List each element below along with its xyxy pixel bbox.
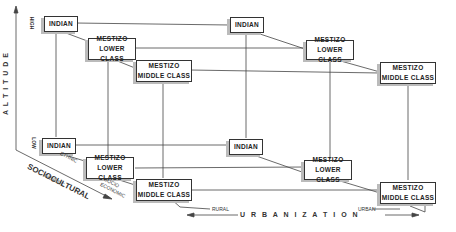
node-label: INDIAN <box>231 20 263 30</box>
node-high-urban-indian: INDIAN <box>230 17 264 33</box>
altitude-low-label: LOW <box>31 137 37 149</box>
node-label: MESTIZO <box>305 155 351 165</box>
node-label: INDIAN <box>230 142 262 152</box>
urban-label: URBAN <box>358 206 376 212</box>
node-label: MESTIZO <box>87 153 133 163</box>
node-high-rural-mestizo-middle: MESTIZO MIDDLE CLASS <box>136 60 192 82</box>
altitude-high-label: HIGH <box>29 17 35 30</box>
rural-label: RURAL <box>212 206 229 212</box>
node-label: MESTIZO <box>381 183 435 193</box>
node-low-urban-mestizo-middle: MESTIZO MIDDLE CLASS <box>380 182 436 204</box>
node-high-urban-mestizo-middle: MESTIZO MIDDLE CLASS <box>380 62 436 84</box>
node-low-urban-mestizo-lower: MESTIZO LOWER CLASS <box>304 160 352 180</box>
node-low-rural-mestizo-middle: MESTIZO MIDDLE CLASS <box>136 179 192 201</box>
node-low-rural-indian: INDIAN <box>42 138 76 154</box>
node-label: MIDDLE CLASS <box>137 190 191 200</box>
node-label: MIDDLE CLASS <box>381 193 435 203</box>
urbanization-axis-label: U R B A N I Z A T I O N <box>240 211 360 218</box>
node-low-rural-mestizo-lower: MESTIZO LOWER CLASS <box>86 157 134 179</box>
altitude-axis-label: A L T I T U D E <box>2 52 9 115</box>
node-label: MESTIZO <box>307 35 353 45</box>
node-low-urban-indian: INDIAN <box>229 139 263 155</box>
node-label: LOWER CLASS <box>307 45 353 65</box>
node-high-urban-mestizo-lower: MESTIZO LOWER CLASS <box>306 40 354 60</box>
node-label: LOWER CLASS <box>305 165 351 185</box>
node-high-rural-indian: INDIAN <box>44 16 78 32</box>
node-label: MIDDLE CLASS <box>137 71 191 81</box>
node-label: MESTIZO <box>137 61 191 71</box>
node-label: LOWER CLASS <box>89 44 135 64</box>
node-label: INDIAN <box>43 141 75 151</box>
node-high-rural-mestizo-lower: MESTIZO LOWER CLASS <box>88 38 136 60</box>
node-label: INDIAN <box>45 19 77 29</box>
node-label: MESTIZO <box>89 34 135 44</box>
node-label: MIDDLE CLASS <box>381 73 435 83</box>
node-label: MESTIZO <box>381 63 435 73</box>
node-label: MESTIZO <box>137 180 191 190</box>
